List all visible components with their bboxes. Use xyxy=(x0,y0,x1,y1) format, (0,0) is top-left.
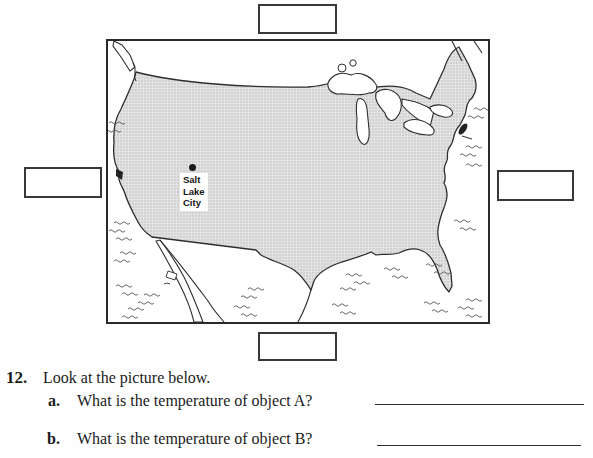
part-a-text: What is the temperature of object A? xyxy=(77,392,312,410)
canadian-lake xyxy=(350,60,356,66)
worksheet-page: Salt Lake City 12. Look at the picture b… xyxy=(0,0,593,458)
canadian-lake xyxy=(338,64,346,72)
question-number: 12. xyxy=(6,368,27,388)
lake-superior xyxy=(328,73,377,95)
salt-lake-city-label: Salt Lake City xyxy=(180,173,208,211)
map-frame xyxy=(106,39,490,324)
salt-lake-city-label-line: Salt xyxy=(183,174,205,186)
baja-lagoon xyxy=(164,283,170,284)
part-b-text: What is the temperature of object B? xyxy=(77,430,312,448)
direction-label-box-right[interactable] xyxy=(497,170,574,201)
salt-lake-city-label-line: Lake xyxy=(183,186,205,198)
direction-label-box-left[interactable] xyxy=(24,167,102,198)
long-island-line xyxy=(462,136,472,139)
salt-lake-city-marker-dot xyxy=(189,164,196,171)
question-prompt: Look at the picture below. xyxy=(43,369,210,387)
st-lawrence-line xyxy=(474,41,482,53)
direction-label-box-bottom[interactable] xyxy=(258,332,337,361)
direction-label-box-top[interactable] xyxy=(258,4,337,34)
mexico-east-coast xyxy=(298,290,311,322)
answer-blank-a[interactable] xyxy=(375,391,584,405)
baja-california xyxy=(156,240,203,322)
salt-lake-city-label-line: City xyxy=(183,197,205,209)
vancouver-island xyxy=(113,41,135,71)
part-a-letter: a. xyxy=(48,392,60,410)
answer-blank-b[interactable] xyxy=(377,432,581,446)
us-map xyxy=(108,41,488,322)
part-b-letter: b. xyxy=(47,430,60,448)
